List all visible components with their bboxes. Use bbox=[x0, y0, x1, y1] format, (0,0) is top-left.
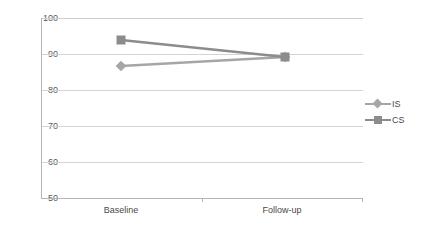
gridline-100 bbox=[41, 18, 363, 19]
legend-item-cs: CS bbox=[365, 112, 423, 128]
x-tick-mark-baseline bbox=[202, 198, 203, 202]
x-tick-mark-followup bbox=[362, 198, 363, 202]
gridline-70 bbox=[41, 126, 363, 127]
square-marker-icon bbox=[374, 116, 382, 124]
y-axis-line bbox=[41, 18, 42, 198]
legend-swatch-cs bbox=[365, 114, 391, 126]
diamond-marker-icon bbox=[373, 99, 383, 109]
legend: IS CS bbox=[365, 96, 423, 128]
gridline-80 bbox=[41, 90, 363, 91]
gridline-90 bbox=[41, 54, 363, 55]
legend-label-is: IS bbox=[392, 99, 401, 110]
line-chart: 100 90 80 70 60 50 Baseline Follow-up bbox=[0, 0, 424, 230]
gridline-60 bbox=[41, 162, 363, 163]
x-tick-label-baseline: Baseline bbox=[61, 205, 181, 216]
legend-swatch-is bbox=[365, 98, 391, 110]
legend-item-is: IS bbox=[365, 96, 423, 112]
plot-area bbox=[41, 18, 363, 198]
legend-label-cs: CS bbox=[392, 115, 405, 126]
x-tick-label-followup: Follow-up bbox=[222, 205, 342, 216]
